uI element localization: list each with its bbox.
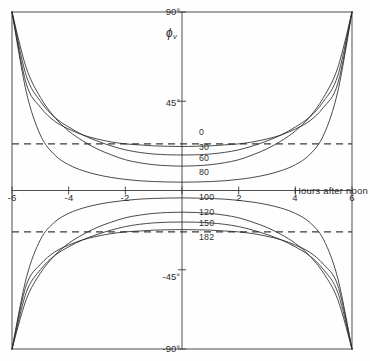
curve-label-150: 150 xyxy=(199,218,214,228)
curve-label-0: 0 xyxy=(199,127,204,137)
curve-label-182: 182 xyxy=(199,232,214,242)
xtick-label-minus-4: -4 xyxy=(59,192,79,203)
chart-canvas xyxy=(0,0,370,361)
curve-label-120: 120 xyxy=(199,207,214,217)
curve-label-30: 30 xyxy=(199,142,209,152)
phi-symbol: ϕ xyxy=(166,26,173,40)
ytick-label-45: 45° xyxy=(150,97,180,108)
curve-label-100: 100 xyxy=(199,192,214,202)
phi-subscript: v xyxy=(173,32,177,41)
ytick-label-minus-45: -45° xyxy=(146,271,180,282)
ytick-label-minus-90: -90° xyxy=(146,343,180,354)
y-axis-title: ϕv xyxy=(166,26,177,41)
x-axis-title: Hours after noon xyxy=(294,185,368,196)
xtick-label-2: 2 xyxy=(230,192,248,203)
curve-label-80: 80 xyxy=(199,167,209,177)
ytick-label-90: 90° xyxy=(150,6,180,17)
chart-figure: 90° 45° -45° -90° ϕv -6 -4 -2 2 4 6 Hour… xyxy=(0,0,370,361)
curve-label-60: 60 xyxy=(199,153,209,163)
plot-frame xyxy=(12,12,352,349)
xtick-label-minus-6: -6 xyxy=(2,192,22,203)
xtick-label-minus-2: -2 xyxy=(115,192,135,203)
